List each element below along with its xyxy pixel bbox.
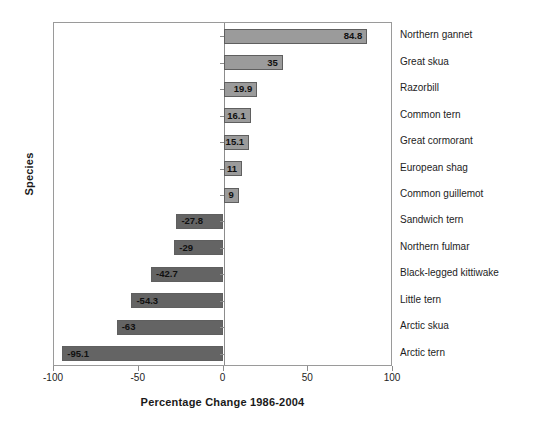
bar-row: 19.9 — [54, 82, 391, 97]
category-label: Common tern — [400, 110, 461, 120]
bar: -29 — [174, 240, 223, 255]
bar-row: 35 — [54, 55, 391, 70]
x-tick-mark — [307, 366, 308, 371]
bar-row: 11 — [54, 161, 391, 176]
category-tick-mark — [220, 354, 224, 355]
y-axis-title: Species — [23, 114, 35, 234]
bar: -54.3 — [131, 293, 223, 308]
bar-row: 84.8 — [54, 29, 391, 44]
x-tick-mark — [392, 366, 393, 371]
plot-area: 84.83519.916.115.1119-27.8-29-42.7-54.3-… — [53, 22, 392, 366]
bar: -95.1 — [62, 346, 223, 361]
bar-row: -54.3 — [54, 293, 391, 308]
bar-value-label: -27.8 — [181, 217, 203, 227]
bar-value-label: 19.9 — [234, 84, 253, 94]
category-label: Little tern — [400, 295, 441, 305]
category-tick-mark — [220, 195, 224, 196]
bar: 84.8 — [224, 29, 368, 44]
bar-value-label: -95.1 — [67, 349, 89, 359]
bar-row: -63 — [54, 320, 391, 335]
x-axis-title: Percentage Change 1986-2004 — [53, 396, 392, 408]
bar-row: 16.1 — [54, 108, 391, 123]
bar-row: -95.1 — [54, 346, 391, 361]
category-label: Sandwich tern — [400, 215, 463, 225]
category-label: Great cormorant — [400, 136, 473, 146]
bar-row: -42.7 — [54, 267, 391, 282]
category-label: Great skua — [400, 57, 449, 67]
category-tick-mark — [220, 301, 224, 302]
category-tick-mark — [220, 116, 224, 117]
seabird-percentage-change-chart: Species 84.83519.916.115.1119-27.8-29-42… — [0, 0, 534, 424]
category-label: Northern gannet — [400, 30, 472, 40]
bar-value-label: 15.1 — [226, 137, 245, 147]
bar: 35 — [224, 55, 283, 70]
bars-layer: 84.83519.916.115.1119-27.8-29-42.7-54.3-… — [54, 23, 391, 365]
bar-value-label: 11 — [227, 164, 237, 174]
bar: -42.7 — [151, 267, 223, 282]
bar: 15.1 — [224, 135, 250, 150]
category-tick-mark — [220, 248, 224, 249]
bar-value-label: 84.8 — [344, 31, 363, 41]
bar-value-label: -29 — [179, 243, 193, 253]
x-tick-label: 0 — [220, 373, 226, 383]
category-label: Northern fulmar — [400, 242, 469, 252]
x-tick-mark — [223, 366, 224, 371]
x-tick-label: 100 — [384, 373, 401, 383]
x-tick-mark — [53, 366, 54, 371]
bar-row: -29 — [54, 240, 391, 255]
bar-value-label: -54.3 — [136, 296, 158, 306]
x-axis-ticks: -100-50050100 — [53, 366, 392, 396]
category-tick-mark — [220, 221, 224, 222]
category-label: Common guillemot — [400, 189, 483, 199]
category-label: Black-legged kittiwake — [400, 268, 499, 278]
bar: 9 — [224, 188, 239, 203]
category-tick-mark — [220, 89, 224, 90]
category-tick-mark — [220, 327, 224, 328]
bar-row: 15.1 — [54, 135, 391, 150]
bar: 19.9 — [224, 82, 258, 97]
bar-value-label: -42.7 — [156, 270, 178, 280]
bar-value-label: 35 — [267, 58, 278, 68]
bar-row: 9 — [54, 188, 391, 203]
x-tick-label: -100 — [43, 373, 63, 383]
bar-value-label: 9 — [228, 190, 233, 200]
bar: 11 — [224, 161, 243, 176]
category-tick-mark — [220, 63, 224, 64]
category-label: Arctic tern — [400, 348, 445, 358]
bar: 16.1 — [224, 108, 251, 123]
category-label: Razorbill — [400, 83, 439, 93]
bar-value-label: -63 — [122, 323, 136, 333]
x-tick-mark — [138, 366, 139, 371]
x-tick-label: 50 — [302, 373, 313, 383]
category-label: Arctic skua — [400, 321, 449, 331]
bar: -27.8 — [176, 214, 223, 229]
category-tick-mark — [220, 274, 224, 275]
category-tick-mark — [220, 142, 224, 143]
category-tick-mark — [220, 36, 224, 37]
bar-value-label: 16.1 — [227, 111, 246, 121]
bar-row: -27.8 — [54, 214, 391, 229]
category-tick-mark — [220, 169, 224, 170]
category-label: European shag — [400, 163, 468, 173]
category-label-list: Northern gannetGreat skuaRazorbillCommon… — [400, 22, 534, 366]
bar: -63 — [117, 320, 224, 335]
x-tick-label: -50 — [131, 373, 145, 383]
